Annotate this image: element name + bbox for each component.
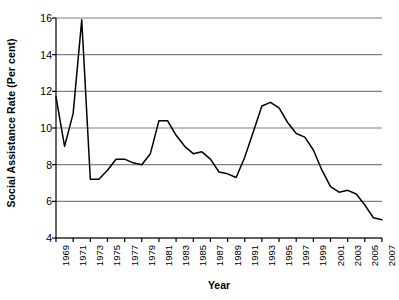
x-tick-label-1985: 1985 [197,245,208,266]
x-tick-label-1975: 1975 [111,245,122,266]
x-tick-label-2007: 2007 [386,245,397,266]
x-tick-label-1981: 1981 [163,245,174,266]
y-tick-label-6: 6 [30,195,52,207]
y-tick-label-10: 10 [30,122,52,134]
x-tick-label-1979: 1979 [146,245,157,266]
social-assistance-rate-line-chart: Social Assistance Rate (Per cent) 468101… [0,0,399,300]
x-axis-title: Year [56,279,382,291]
x-tick-label-1997: 1997 [300,245,311,266]
x-tick-label-1991: 1991 [249,245,260,266]
x-tick-label-2005: 2005 [369,245,380,266]
data-series-line [56,20,382,220]
x-axis-tick-labels: 1969197119731975197719791981198319851987… [0,243,399,277]
y-axis-tick-labels: 46810121416 [26,0,52,245]
x-tick-label-1983: 1983 [180,245,191,266]
y-axis-title: Social Assistance Rate (Per cent) [0,0,22,245]
x-tick-label-2001: 2001 [335,245,346,266]
x-tick-label-1995: 1995 [283,245,294,266]
x-tick-label-1977: 1977 [129,245,140,266]
x-tick-label-1971: 1971 [77,245,88,266]
x-tick-label-1989: 1989 [232,245,243,266]
y-tick-label-14: 14 [30,49,52,61]
y-tick-label-8: 8 [30,159,52,171]
x-tick-label-1993: 1993 [266,245,277,266]
y-tick-label-12: 12 [30,85,52,97]
x-tick-label-1987: 1987 [214,245,225,266]
x-tick-label-1999: 1999 [317,245,328,266]
chart-page: Social Assistance Rate (Per cent) 468101… [0,0,399,300]
y-tick-label-16: 16 [30,12,52,24]
x-tick-label-1969: 1969 [60,245,71,266]
x-tick-label-2003: 2003 [352,245,363,266]
y-axis-title-text: Social Assistance Rate (Per cent) [5,38,17,207]
x-tick-label-1973: 1973 [94,245,105,266]
gridlines [56,18,382,238]
x-tick-marks [56,238,382,242]
